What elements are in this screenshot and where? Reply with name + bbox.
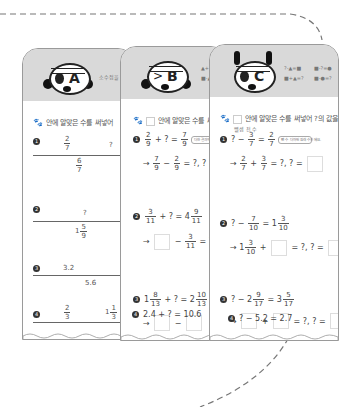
problem-number: 1 <box>33 138 40 145</box>
number-line <box>33 275 133 276</box>
label-top: ? <box>83 209 87 217</box>
label-top-right: 113 <box>105 304 118 321</box>
problem-3: 31813 + ? = 21013 <box>133 291 208 308</box>
header-rule: ■-●=? <box>314 75 332 81</box>
paw-icon: 🐾 <box>220 114 230 123</box>
label-bottom: 67 <box>75 157 83 174</box>
label-top-left: 23 <box>63 304 71 321</box>
instruction: 🐾안에 알맞은 수를 써넣어 <box>33 117 113 127</box>
problem-number: 3 <box>33 265 40 272</box>
worksheet-card-c: C ?-▲=■ ■+▲=? ■-?=● ■-●=? 🐾안에 알맞은 수를 써넣어… <box>209 44 339 341</box>
number-line <box>33 155 133 156</box>
mascot-a-icon: A <box>45 59 91 93</box>
header-rule: ■+▲=? <box>284 75 304 81</box>
number-line <box>33 221 133 222</box>
label-top-right: ? <box>109 141 113 149</box>
problem-2: 2? − 710 = 1310 <box>220 215 290 232</box>
problem-2-answer: → 1310 + = ?, ? = <box>230 239 339 256</box>
card-b-problem-4: 42.4 + ? = 10.6 <box>132 310 201 319</box>
card-c-problem-4: 4? − 5.2 = 2.7 <box>228 314 292 323</box>
answer-box[interactable] <box>154 234 170 250</box>
problem-number: 2 <box>33 206 40 213</box>
instruction: 🐾안에 알맞은 수를 써 <box>133 115 213 126</box>
label-bottom: 159 <box>75 223 88 240</box>
problem-2: 2311 + ? = 4911 <box>133 208 203 225</box>
problem-2-answer: → − 311 = ?, <box>143 233 216 250</box>
paw-icon: 🐾 <box>133 116 143 125</box>
mascot-b-icon: > B <box>143 57 189 91</box>
label-top-left: 3.2 <box>63 264 74 272</box>
answer-box[interactable] <box>330 313 339 329</box>
answer-box[interactable] <box>271 240 287 256</box>
hint-bubble: 뺀 수 더하면 원래 수가 돼요. <box>278 136 312 144</box>
problem-3: 3? − 2917 = 3517 <box>220 291 295 308</box>
header-rule: ■-?=● <box>314 65 332 71</box>
number-line <box>33 322 133 323</box>
header-rule: ?-▲=■ <box>284 65 301 71</box>
problem-1-answer: → 27 + 37 = ?, ? = <box>230 155 325 172</box>
paw-icon: 🐾 <box>33 118 43 127</box>
answer-box[interactable] <box>307 156 323 172</box>
label-top-left: 27 <box>63 135 71 152</box>
label-bottom: 5.6 <box>85 279 96 287</box>
worksheet-card-a: A 소수점을 소수에서 ? 🐾안에 알맞은 수를 써넣어 1 27 ? 67 2… <box>22 48 134 340</box>
instruction: 🐾안에 알맞은 수를 써넣어 ?의 값을 <box>220 113 338 124</box>
problem-1: 1? − 37 = 27 뺀 수 더하면 원래 수가 돼요. <box>220 131 312 148</box>
problem-number: 4 <box>33 311 40 318</box>
answer-box[interactable] <box>328 240 339 256</box>
mascot-c-icon: C <box>230 57 276 91</box>
problem-1-answer: → 79 − 29 = ?, ? = <box>143 155 216 172</box>
